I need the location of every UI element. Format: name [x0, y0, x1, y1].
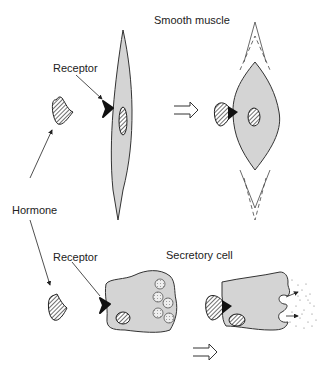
nucleus-icon — [229, 314, 245, 326]
transition-arrow-icon-bottom — [193, 344, 217, 360]
receptor-pointer-top — [76, 75, 102, 99]
secretory-cell-label: Secretory cell — [166, 249, 233, 261]
hormone-molecule-top — [52, 97, 73, 124]
hormone-receptor-diagram — [0, 0, 330, 374]
receptor-pointer-bottom — [72, 262, 100, 296]
smooth-muscle-label: Smooth muscle — [154, 14, 230, 26]
nucleus-icon — [119, 107, 127, 135]
hormone-pointer-up — [30, 130, 52, 178]
nucleus-icon — [116, 312, 130, 324]
receptor-label-top: Receptor — [53, 62, 98, 74]
transition-arrow-icon-top — [174, 102, 198, 118]
secreted-particles — [289, 279, 316, 328]
hormone-molecule-bottom — [48, 294, 67, 320]
hormone-pointer-down — [30, 220, 50, 285]
receptor-label-bottom: Receptor — [53, 251, 98, 263]
hormone-label: Hormone — [12, 204, 57, 216]
nucleus-icon — [248, 108, 260, 126]
receptor-icon — [103, 101, 113, 117]
